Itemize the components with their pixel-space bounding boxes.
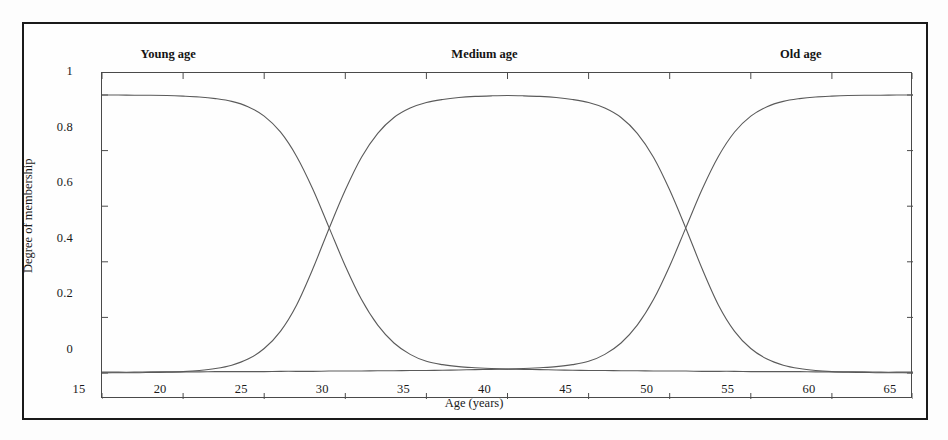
- y-axis-title: Degree of membership: [21, 158, 36, 273]
- y-tick-label: 0: [33, 342, 73, 357]
- curve-old-age: [102, 95, 913, 372]
- x-tick-label: 15: [59, 382, 99, 397]
- x-tick-label: 20: [140, 382, 180, 397]
- y-tick-label: 0.8: [33, 120, 73, 135]
- annotation-old-age: Old age: [780, 47, 821, 62]
- x-tick-label: 35: [383, 382, 423, 397]
- membership-curves-svg: [102, 73, 913, 399]
- plot-area-frame: [101, 72, 912, 398]
- axis-ticks: [102, 73, 913, 399]
- annotation-young-age: Young age: [141, 47, 196, 62]
- x-tick-label: 30: [302, 382, 342, 397]
- x-tick-label: 40: [465, 382, 505, 397]
- curves-group: [102, 95, 913, 373]
- y-tick-label: 1: [33, 64, 73, 79]
- x-tick-label: 65: [870, 382, 910, 397]
- x-tick-label: 25: [221, 382, 261, 397]
- x-axis-title: Age (years): [0, 396, 948, 411]
- figure-page: 1520253035404550556065 00.20.40.60.81 Yo…: [0, 0, 948, 440]
- y-tick-label: 0.2: [33, 286, 73, 301]
- curve-young-age: [102, 95, 913, 372]
- y-tick-label: 0.4: [33, 231, 73, 246]
- curve-medium-age: [102, 96, 913, 373]
- x-tick-label: 50: [627, 382, 667, 397]
- annotation-medium-age: Medium age: [451, 47, 517, 62]
- x-tick-label: 55: [708, 382, 748, 397]
- x-tick-label: 60: [789, 382, 829, 397]
- y-tick-label: 0.6: [33, 175, 73, 190]
- x-tick-label: 45: [546, 382, 586, 397]
- figure-outer-border: 1520253035404550556065 00.20.40.60.81 Yo…: [22, 22, 928, 420]
